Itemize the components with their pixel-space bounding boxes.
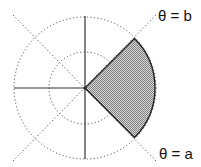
ray-a-label: θ = a <box>159 145 193 162</box>
polar-sector-diagram <box>0 0 201 167</box>
origin-point <box>84 87 87 90</box>
ray-b-label: θ = b <box>158 7 192 24</box>
